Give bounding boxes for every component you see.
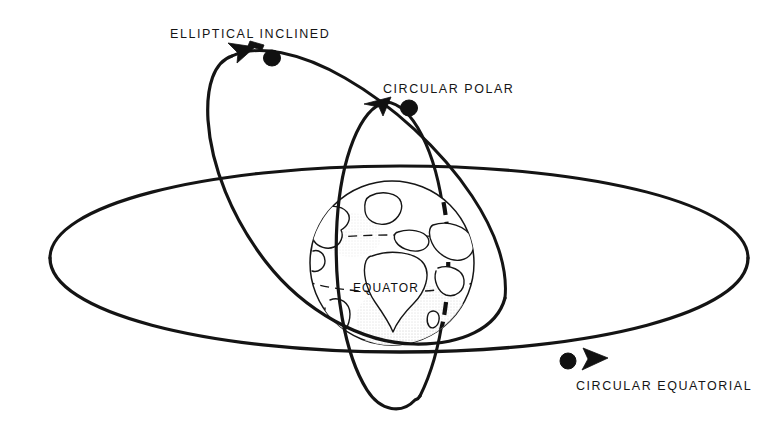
circular-equatorial-label: CIRCULAR EQUATORIAL bbox=[576, 379, 752, 393]
island-madagascar bbox=[427, 311, 439, 328]
earth-globe: EQUATOR bbox=[304, 181, 482, 352]
circular-polar-satellite-dot[interactable] bbox=[401, 100, 418, 116]
circular-equatorial-direction-arrow-icon bbox=[582, 348, 608, 370]
equator-label: EQUATOR bbox=[353, 281, 419, 295]
elliptical-inclined-satellite-dot[interactable] bbox=[264, 50, 281, 66]
orbit-diagram-root: EQUATOR ELLIPTICAL INCLINED bbox=[0, 0, 775, 437]
orbit-diagram-canvas: EQUATOR ELLIPTICAL INCLINED bbox=[0, 0, 775, 437]
circular-equatorial-satellite-dot[interactable] bbox=[560, 353, 576, 369]
circular-polar-label: CIRCULAR POLAR bbox=[383, 82, 514, 96]
elliptical-inclined-label: ELLIPTICAL INCLINED bbox=[170, 27, 330, 41]
